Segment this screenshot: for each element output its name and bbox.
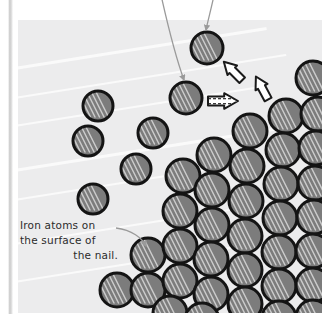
- free-atom: [178, 32, 224, 64]
- lattice-atom: [150, 194, 198, 228]
- free-atom: [125, 118, 169, 148]
- caption-iron-atoms: Iron atoms on the surface of the nail.: [20, 218, 132, 263]
- top-right-leader: [206, 0, 216, 30]
- free-atom: [157, 82, 203, 114]
- caption-line-2: the surface of: [20, 233, 132, 248]
- lattice-atom: [153, 159, 201, 193]
- free-atom: [60, 126, 104, 156]
- caption-line-3: the nail.: [20, 248, 132, 263]
- free-atom: [70, 91, 114, 121]
- lattice-atom: [283, 61, 330, 95]
- lattice-atom: [87, 273, 135, 307]
- block-arrow-up-left-lower: [250, 73, 274, 102]
- block-arrow-group: [208, 57, 274, 109]
- free-atom: [65, 184, 109, 214]
- top-left-leader: [159, 0, 184, 80]
- figure-canvas: Iron atoms on the surface of the nail.: [0, 0, 330, 328]
- free-atom: [108, 154, 152, 184]
- caption-line-1: Iron atoms on: [20, 218, 132, 233]
- block-arrow-right: [208, 93, 238, 109]
- atoms-artwork: [0, 0, 330, 328]
- block-arrow-up-left-upper: [219, 57, 247, 85]
